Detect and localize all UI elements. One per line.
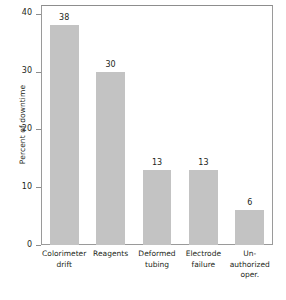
x-axis-category-label: Electrodefailure bbox=[180, 249, 226, 270]
category-label-line: authorized bbox=[227, 260, 273, 271]
bars-layer: 383013136 bbox=[41, 5, 273, 245]
category-label-line: Colorimeter bbox=[41, 249, 87, 260]
category-label-line: oper. bbox=[227, 270, 273, 281]
category-label-line: Electrode bbox=[180, 249, 226, 260]
y-axis-tick-label: 30 bbox=[22, 66, 32, 75]
x-axis-category-labels: ColorimeterdriftReagentsDeformedtubingEl… bbox=[41, 249, 273, 297]
category-label-line: tubing bbox=[134, 260, 180, 271]
y-axis-tick-label: 20 bbox=[22, 124, 32, 133]
bar-slot: 13 bbox=[143, 5, 172, 245]
x-axis-category-label: Deformedtubing bbox=[134, 249, 180, 270]
category-label-line: failure bbox=[180, 260, 226, 271]
bar[interactable] bbox=[96, 72, 125, 245]
category-label-line: drift bbox=[41, 260, 87, 271]
bar-value-label: 6 bbox=[235, 198, 264, 207]
bar-slot: 13 bbox=[189, 5, 218, 245]
bar-value-label: 13 bbox=[143, 158, 172, 167]
category-label-line: Un- bbox=[227, 249, 273, 260]
x-axis-category-label: Un-authorizedoper. bbox=[227, 249, 273, 281]
y-axis-tick-label: 10 bbox=[22, 182, 32, 191]
bar[interactable] bbox=[50, 25, 79, 245]
bar-slot: 6 bbox=[235, 5, 264, 245]
category-label-line: Reagents bbox=[87, 249, 133, 260]
bar-slot: 30 bbox=[96, 5, 125, 245]
bar-chart: Percent of downtime 010203040 383013136 … bbox=[0, 0, 286, 300]
x-axis-category-label: Reagents bbox=[87, 249, 133, 260]
bar[interactable] bbox=[189, 170, 218, 245]
bar[interactable] bbox=[235, 210, 264, 245]
category-label-line: Deformed bbox=[134, 249, 180, 260]
x-axis-category-label: Colorimeterdrift bbox=[41, 249, 87, 270]
y-axis-tick-mark bbox=[36, 245, 41, 246]
bar-value-label: 38 bbox=[50, 13, 79, 22]
bar[interactable] bbox=[143, 170, 172, 245]
bar-value-label: 13 bbox=[189, 158, 218, 167]
bar-value-label: 30 bbox=[96, 60, 125, 69]
bar-slot: 38 bbox=[50, 5, 79, 245]
y-axis-tick-label: 40 bbox=[22, 8, 32, 17]
y-axis-tick-label: 0 bbox=[27, 240, 32, 249]
